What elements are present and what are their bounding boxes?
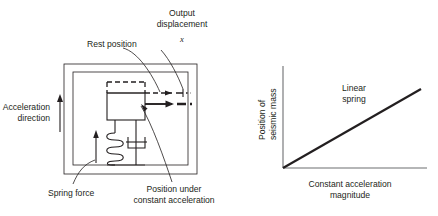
chart-xlabel-line1: Constant acceleration — [308, 179, 391, 189]
acceleration-direction-label-line2: direction — [18, 113, 51, 123]
accelerometer-schematic: Rest position Output displacement x Acce… — [3, 8, 215, 205]
acceleration-direction-label-line1: Acceleration — [3, 102, 51, 112]
position-under-label-line2: constant acceleration — [133, 195, 214, 205]
linear-spring-chart: Position of seismic mass Constant accele… — [257, 66, 427, 200]
chart-annotation-line2: spring — [342, 94, 366, 104]
mass-block — [107, 93, 145, 120]
chart-annotation-line1: Linear — [342, 83, 366, 93]
rest-position-label: Rest position — [87, 39, 137, 49]
output-displacement-label-line1: Output — [169, 8, 195, 18]
chart-ylabel-line2: seismic mass — [268, 88, 278, 140]
spring-force-label: Spring force — [48, 188, 95, 198]
output-displacement-label-line2: displacement — [157, 19, 208, 29]
acceleration-arrow — [57, 94, 63, 132]
figure-canvas: Rest position Output displacement x Acce… — [0, 0, 438, 216]
output-displacement-symbol: x — [179, 34, 184, 44]
chart-ylabel-line1: Position of — [257, 99, 267, 140]
position-under-label-line1: Position under — [147, 184, 202, 194]
figure-root: Rest position Output displacement x Acce… — [0, 0, 438, 216]
chart-xlabel-line2: magnitude — [330, 190, 370, 200]
